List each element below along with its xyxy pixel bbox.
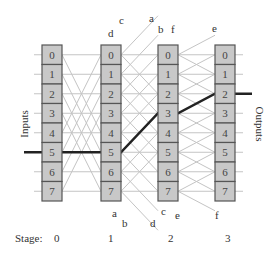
- switch-columns: 01234567012345670123456701234567: [42, 45, 235, 201]
- switch-cell-label: 4: [222, 127, 228, 139]
- switch-column-2: 01234567: [158, 45, 178, 201]
- stage-0-label: 0: [54, 233, 60, 244]
- switch-cell-label: 5: [222, 146, 228, 158]
- switch-cell-label: 4: [108, 127, 114, 139]
- switch-cell-label: 5: [165, 146, 171, 158]
- switch-cell-label: 4: [49, 127, 55, 139]
- switch-cell-label: 6: [165, 166, 171, 178]
- inputs-label: Inputs: [18, 110, 30, 138]
- switch-cell-label: 5: [108, 146, 114, 158]
- network-diagram: 01234567012345670123456701234567 Inputs …: [0, 0, 275, 260]
- switch-cell-label: 0: [108, 49, 114, 61]
- interconnect-wires: [34, 16, 243, 231]
- stage-1-label: 1: [108, 233, 114, 244]
- wire-label-c-bottom: c: [161, 206, 166, 217]
- switch-column-0: 01234567: [42, 45, 62, 201]
- switch-cell-label: 1: [165, 68, 171, 80]
- stage-2-label: 2: [168, 233, 174, 244]
- wire-label-b-top: b: [158, 24, 164, 35]
- switch-cell-label: 6: [222, 166, 228, 178]
- wire-label-b-bottom: b: [122, 218, 128, 229]
- wire-label-e-top: e: [212, 23, 217, 34]
- wire-label-f-bottom: f: [215, 210, 219, 221]
- switch-cell-label: 1: [108, 68, 114, 80]
- wire-label-a-bottom: a: [112, 208, 117, 219]
- switch-cell-label: 0: [49, 49, 55, 61]
- wire-label-d-top: d: [108, 28, 114, 39]
- switch-cell-label: 6: [49, 166, 55, 178]
- switch-column-1: 01234567: [101, 45, 121, 201]
- switch-cell-label: 1: [49, 68, 55, 80]
- wire-label-e-bottom: e: [175, 210, 180, 221]
- stage-3-label: 3: [225, 233, 231, 244]
- outputs-label: Outputs: [254, 107, 266, 142]
- switch-column-3: 01234567: [215, 45, 235, 201]
- switch-cell-label: 3: [165, 107, 171, 119]
- switch-cell-label: 1: [222, 68, 228, 80]
- switch-cell-label: 5: [49, 146, 55, 158]
- switch-cell-label: 3: [49, 107, 55, 119]
- wire-label-f-top: f: [171, 24, 175, 35]
- switch-cell-label: 2: [108, 88, 114, 100]
- switch-cell-label: 3: [222, 107, 228, 119]
- switch-cell-label: 3: [108, 107, 114, 119]
- switch-cell-label: 7: [222, 185, 228, 197]
- switch-cell-label: 7: [108, 185, 114, 197]
- switch-cell-label: 4: [165, 127, 171, 139]
- switch-cell-label: 7: [49, 185, 55, 197]
- wire-label-d-bottom: d: [150, 218, 156, 229]
- network-svg: 01234567012345670123456701234567: [0, 0, 275, 260]
- switch-cell-label: 6: [108, 166, 114, 178]
- switch-cell-label: 0: [165, 49, 171, 61]
- stage-label: Stage:: [15, 233, 43, 244]
- switch-cell-label: 2: [165, 88, 171, 100]
- switch-cell-label: 2: [222, 88, 228, 100]
- switch-cell-label: 0: [222, 49, 228, 61]
- wire-label-a-top: a: [149, 13, 154, 24]
- wire-label-c-top: c: [119, 15, 124, 26]
- switch-cell-label: 2: [49, 88, 55, 100]
- switch-cell-label: 7: [165, 185, 171, 197]
